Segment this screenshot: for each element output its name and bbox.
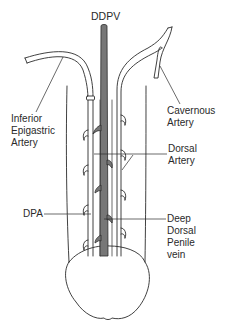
label-inferior-epigastric-artery: Inferior Epigastric Artery [11,113,55,149]
artery-ring [87,96,95,100]
label-deep-dorsal-penile-vein: Deep Dorsal Penile vein [167,213,196,261]
inferior-epigastric-artery-inner [27,57,88,256]
label-dorsal-artery: Dorsal Artery [168,143,197,167]
diagram: DDPV Inferior Epigastric Artery Cavernou… [0,0,227,330]
label-cavernous-artery: Cavernous Artery [167,105,215,129]
right-artery-inner [121,48,162,256]
shaft-left-outline [66,86,69,262]
cavernous-branch [154,27,172,78]
label-ddpv: DDPV [91,10,120,22]
leader-dorsal-diag [122,155,133,170]
inferior-epigastric-artery-outer [25,52,93,256]
glans-outline [65,246,149,320]
leader-cavernous [160,66,180,104]
deep-dorsal-vein [93,25,112,257]
label-dpa: DPA [23,208,43,220]
shaft-right-outline [145,86,146,262]
leader-inferior-epigastric [36,57,63,112]
